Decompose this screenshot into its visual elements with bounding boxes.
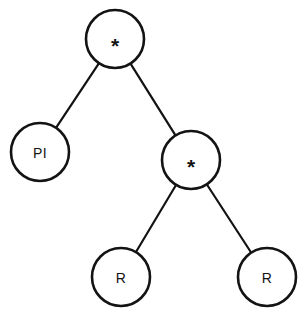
tree-node-leaf-r1[interactable]: R <box>92 248 150 306</box>
node-label-right-inner: * <box>187 155 196 178</box>
edges-group <box>55 62 251 253</box>
tree-node-right-inner[interactable]: * <box>162 131 220 189</box>
tree-edge-right-inner-to-leaf-r1 <box>135 184 176 253</box>
tree-node-left-leaf[interactable]: PI <box>11 123 69 181</box>
node-label-leaf-r2: R <box>262 270 272 286</box>
node-label-left-leaf: PI <box>33 145 47 161</box>
tree-node-leaf-r2[interactable]: R <box>238 248 296 306</box>
expression-tree-diagram: *PI*RR <box>0 0 306 324</box>
node-label-root: * <box>111 34 120 57</box>
tree-node-root[interactable]: * <box>86 10 144 68</box>
node-label-leaf-r1: R <box>116 270 126 286</box>
nodes-group: *PI*RR <box>11 10 296 306</box>
tree-edge-root-to-left-leaf <box>55 62 99 128</box>
tree-edge-right-inner-to-leaf-r2 <box>206 183 252 253</box>
tree-svg-canvas: *PI*RR <box>0 0 306 324</box>
tree-edge-root-to-right-inner <box>130 63 176 137</box>
